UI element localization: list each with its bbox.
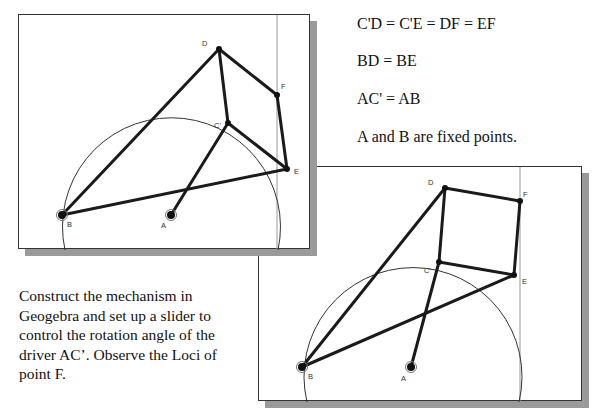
point-label-b: B <box>67 220 72 229</box>
point-label-e: E <box>294 167 299 176</box>
point-label-c-prime: C' <box>424 266 431 275</box>
circle-arc <box>304 268 522 402</box>
mechanism-diagram-1: B A C' D E F <box>19 15 311 250</box>
joints <box>297 185 524 373</box>
point-label-d: D <box>428 178 434 187</box>
joints <box>57 46 291 221</box>
point-label-a: A <box>401 374 406 383</box>
fixed-points-note: A and B are fixed points. <box>357 128 517 146</box>
equation-bd-be: BD = BE <box>357 52 417 70</box>
point-label-f: F <box>281 82 286 91</box>
equation-ac-ab: AC' = AB <box>357 90 420 108</box>
point-label-d: D <box>202 39 208 48</box>
linkage <box>302 188 520 367</box>
point-label-b: B <box>308 372 313 381</box>
point-label-a: A <box>161 221 166 230</box>
point-label-c-prime: C' <box>214 121 221 130</box>
task-description: Construct the mechanism in Geogebra and … <box>19 286 249 384</box>
geogebra-panel-1: B A C' D E F <box>18 14 310 249</box>
equation-link-lengths: C'D = C'E = DF = EF <box>357 15 496 33</box>
point-label-e: E <box>522 277 527 286</box>
point-label-f: F <box>523 190 528 199</box>
linkage <box>62 49 287 215</box>
